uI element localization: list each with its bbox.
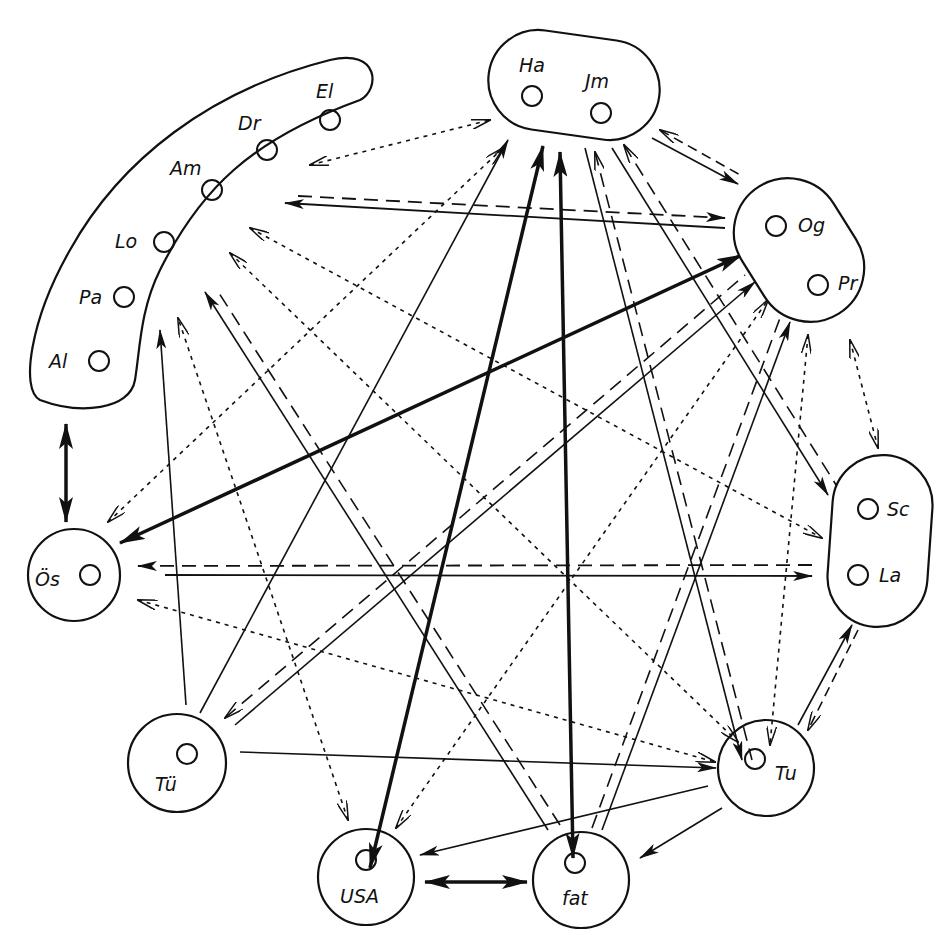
label-ha: Ha — [519, 54, 545, 76]
label-la: La — [879, 564, 901, 586]
edge-northeast-east-dotted — [850, 340, 878, 448]
edge-fat-west-solid — [205, 292, 548, 830]
label-dr: Dr — [238, 112, 262, 134]
edge-north-tu-solid — [585, 148, 742, 760]
edge-tu-north — [200, 140, 508, 713]
label-usa: USA — [340, 885, 379, 907]
edge-tu-northeast-dashed — [225, 275, 745, 718]
node-dot-fat — [565, 853, 585, 873]
label-sc: Sc — [887, 498, 910, 520]
group-tu-umlaut — [128, 714, 226, 812]
edge-tu-west — [160, 330, 186, 705]
label-jm: Jm — [581, 70, 609, 92]
group-northeast — [713, 158, 884, 342]
group-west — [30, 58, 372, 408]
label-og: Og — [798, 214, 825, 236]
label-lo: Lo — [115, 230, 137, 252]
group-north — [482, 24, 666, 147]
relationship-diagram: El Dr Am Lo Pa Al Ha Jm Og Pr Sc La Ös T… — [0, 0, 951, 952]
edge-north-northeast-solid — [652, 138, 738, 184]
edge-os-east-solid — [165, 575, 812, 576]
group-tu — [718, 720, 814, 816]
label-os: Ös — [35, 568, 60, 590]
node-dot-tu-umlaut — [177, 744, 197, 764]
edge-usa-northeast-dotted — [396, 300, 768, 828]
group-usa — [318, 829, 414, 925]
group-east — [824, 452, 936, 631]
label-el: El — [316, 80, 334, 102]
edge-northeast-tu-dotted — [770, 335, 808, 745]
edge-east-os-dashed — [138, 565, 812, 566]
label-pr: Pr — [838, 272, 858, 294]
label-tu-umlaut: Tü — [155, 773, 177, 795]
edge-usa-west-dotted — [178, 318, 348, 820]
edge-north-northeast-dashed — [660, 130, 742, 176]
node-dot-os — [80, 565, 100, 585]
edge-fat-northeast-dashed — [592, 318, 780, 828]
edge-north-fat — [560, 152, 573, 858]
edge-fat-west-dashed — [217, 290, 560, 825]
edge-tu-usa — [420, 786, 708, 855]
label-fat: fat — [562, 887, 589, 909]
label-am: Am — [168, 157, 202, 179]
label-pa: Pa — [79, 286, 102, 308]
label-tu: Tu — [775, 762, 797, 784]
node-dot-tu — [745, 749, 765, 769]
edge-tu-fat — [640, 808, 722, 858]
group-fat — [533, 832, 629, 928]
edge-east-tu-dashed — [808, 630, 858, 730]
edge-west-east-dotted — [250, 228, 822, 538]
label-al: Al — [47, 350, 68, 372]
edge-tu-tu — [240, 752, 716, 768]
edge-os-tu-dotted — [138, 600, 715, 762]
edge-east-tu-solid — [798, 625, 852, 725]
